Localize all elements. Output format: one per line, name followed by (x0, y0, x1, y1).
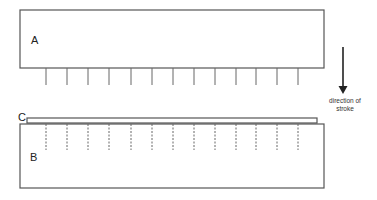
diagram-canvas: A C B direction of stroke (0, 0, 377, 200)
label-a: A (31, 34, 39, 46)
box-a (20, 10, 324, 68)
caption-line-1: direction of (329, 97, 361, 104)
strip-c (27, 118, 317, 123)
solid-teeth (46, 68, 298, 85)
caption-line-2: stroke (336, 105, 354, 112)
box-b (20, 124, 324, 188)
label-c: C (18, 111, 26, 123)
arrow-down-icon (339, 47, 348, 94)
dashed-teeth (46, 124, 298, 150)
label-b: B (30, 151, 37, 163)
